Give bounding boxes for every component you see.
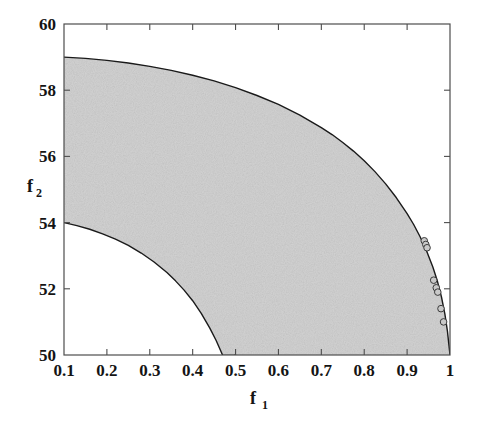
x-tick-label: 0.1 bbox=[53, 361, 74, 380]
x-axis-title: f 1 bbox=[250, 388, 268, 412]
pareto-front-chart: 0.10.20.30.40.50.60.70.80.91 50525456586… bbox=[0, 0, 481, 429]
x-tick-label: 0.5 bbox=[225, 361, 246, 380]
y-tick-label: 56 bbox=[39, 147, 56, 166]
x-axis-tick-labels: 0.10.20.30.40.50.60.70.80.91 bbox=[53, 361, 454, 380]
x-tick-label: 0.9 bbox=[396, 361, 417, 380]
y-tick-label: 50 bbox=[39, 346, 56, 365]
pareto-point-marker bbox=[438, 305, 445, 312]
y-axis-title: f 2 bbox=[27, 176, 42, 200]
x-axis-title-text: f bbox=[250, 388, 257, 408]
y-tick-label: 58 bbox=[39, 81, 56, 100]
y-tick-label: 54 bbox=[39, 214, 57, 233]
y-tick-label: 60 bbox=[39, 15, 56, 34]
x-tick-label: 1 bbox=[446, 361, 455, 380]
pareto-point-marker bbox=[434, 289, 441, 296]
y-axis-title-text: f bbox=[27, 176, 34, 196]
y-axis-title-subscript: 2 bbox=[36, 186, 42, 200]
x-tick-label: 0.2 bbox=[96, 361, 117, 380]
figure-canvas: 0.10.20.30.40.50.60.70.80.91 50525456586… bbox=[0, 0, 481, 429]
x-axis-title-subscript: 1 bbox=[262, 398, 268, 412]
x-tick-label: 0.6 bbox=[268, 361, 289, 380]
x-tick-label: 0.7 bbox=[311, 361, 333, 380]
x-tick-label: 0.4 bbox=[182, 361, 204, 380]
x-tick-label: 0.3 bbox=[139, 361, 160, 380]
pareto-point-marker bbox=[430, 277, 437, 284]
x-tick-label: 0.8 bbox=[354, 361, 375, 380]
pareto-point-marker bbox=[440, 319, 447, 326]
y-tick-label: 52 bbox=[39, 280, 56, 299]
pareto-point-marker bbox=[424, 244, 431, 251]
